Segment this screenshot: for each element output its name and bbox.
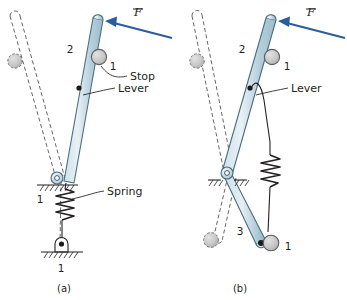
force-arrow-head-b bbox=[278, 17, 290, 28]
ghost-stop-icon-b bbox=[190, 54, 204, 68]
label-force-a: F bbox=[133, 5, 143, 19]
ghost-lever-b bbox=[190, 10, 233, 172]
label-force-b: F bbox=[306, 5, 316, 19]
spring-bottom-lead-b bbox=[268, 187, 270, 232]
label-link-2-a: 2 bbox=[67, 43, 74, 55]
spring-b bbox=[251, 83, 280, 232]
label-lower-ground-1-b: 1 bbox=[285, 240, 292, 252]
ground-anchor-a bbox=[41, 238, 83, 258]
ghost-link3-edge-a bbox=[213, 176, 228, 240]
label-base-ground-1-a: 1 bbox=[58, 262, 65, 274]
ghost-lever-cap-b bbox=[192, 10, 202, 16]
force-arrow-head-a bbox=[105, 17, 117, 28]
stop-icon-a bbox=[91, 49, 106, 64]
spring-coil-b bbox=[261, 155, 280, 187]
label-link-2-b: 2 bbox=[239, 43, 246, 55]
stop-lower-icon-b bbox=[263, 235, 279, 251]
ghost-lever-edge-left-b bbox=[192, 16, 224, 172]
pivot-inner-a bbox=[55, 176, 60, 181]
ghost-lever-edge-right bbox=[20, 16, 66, 182]
stop-icon-b bbox=[264, 49, 279, 64]
lever-link-2-b bbox=[222, 15, 276, 175]
anchor-pin-a bbox=[59, 241, 64, 246]
lever-node-a bbox=[76, 85, 81, 90]
ghost-stop-lower-icon-b bbox=[204, 233, 219, 248]
mechanism-figure: 2 1 1 1 Stop Lever Spring F (a) bbox=[0, 0, 347, 300]
pivot-inner-b bbox=[225, 171, 230, 176]
leader-spring-a bbox=[72, 191, 104, 199]
label-stop-ground-1-b: 1 bbox=[284, 60, 291, 72]
caption-b: (b) bbox=[233, 283, 247, 294]
label-stop-ground-1-a: 1 bbox=[110, 60, 117, 72]
ghost-lever-edge-left bbox=[10, 16, 57, 182]
panel-b: 2 1 3 1 Lever F (b) bbox=[190, 5, 345, 294]
label-pivot-ground-1-a: 1 bbox=[37, 193, 44, 205]
force-arrow-shaft-a bbox=[110, 22, 172, 38]
ghost-lever-cap bbox=[10, 11, 20, 16]
spring-top-lead-a bbox=[65, 183, 66, 189]
lever-link-2-a bbox=[64, 15, 103, 183]
ghost-stop-icon bbox=[8, 54, 22, 68]
spring-coil-a bbox=[56, 189, 74, 220]
ghost-lever-edge-right-b bbox=[202, 15, 233, 170]
force-arrow-shaft-b bbox=[283, 22, 345, 38]
spring-a bbox=[56, 183, 74, 243]
link-3-body-b bbox=[222, 172, 266, 244]
label-link-3-b: 3 bbox=[237, 225, 244, 237]
label-lever-b: Lever bbox=[291, 82, 322, 95]
label-lever-a: Lever bbox=[118, 82, 149, 95]
panel-a: 2 1 1 1 Stop Lever Spring F (a) bbox=[8, 5, 172, 294]
figure-root: 2 1 1 1 Stop Lever Spring F (a) bbox=[0, 0, 347, 300]
ghost-lever-a bbox=[8, 11, 66, 182]
label-spring-a: Spring bbox=[107, 185, 143, 198]
link-3-b bbox=[222, 172, 266, 248]
anchor-ground-hatch-a bbox=[44, 252, 78, 258]
lever-body-b bbox=[222, 18, 276, 175]
caption-a: (a) bbox=[57, 283, 71, 294]
